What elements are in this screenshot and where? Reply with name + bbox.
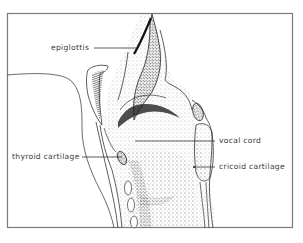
vocal-cord-label: vocal cord	[219, 136, 261, 145]
thyroid-cartilage-label: thyroid cartilage	[12, 152, 80, 161]
epiglottis-label: epiglottis	[51, 43, 89, 52]
larynx-illustration	[0, 0, 303, 243]
cricoid-cartilage-label: cricoid cartilage	[219, 162, 285, 171]
larynx-diagram: epiglottis thyroid cartilage vocal cord …	[0, 0, 303, 243]
cricoid-cartilage-outline	[195, 124, 214, 181]
